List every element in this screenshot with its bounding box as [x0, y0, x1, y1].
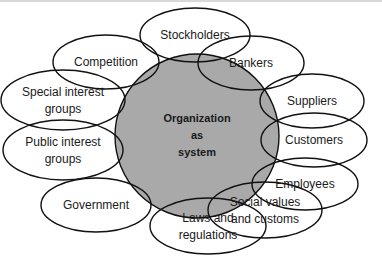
competition-label-line: Competition [74, 55, 138, 69]
organization-environment-diagram: OrganizationassystemStockholdersCompetit… [0, 0, 382, 264]
special-interest-groups-label-line: Special interest [22, 85, 105, 99]
social-values-label: Social valuesand customs [230, 195, 301, 226]
public-interest-groups-label: Public interestgroups [25, 135, 101, 166]
bankers-label-line: Bankers [229, 56, 273, 70]
laws-regulations-label-line: regulations [179, 228, 238, 242]
stockholders-label: Stockholders [160, 28, 229, 42]
government-label-line: Government [63, 198, 130, 212]
competition-label: Competition [74, 55, 138, 69]
public-interest-groups-label-line: Public interest [25, 135, 101, 149]
special-interest-groups-label: Special interestgroups [22, 85, 105, 116]
bankers-label: Bankers [229, 56, 273, 70]
employees-label: Employees [275, 177, 334, 191]
customers-label-line: Customers [285, 133, 343, 147]
employees-label-line: Employees [275, 177, 334, 191]
social-values-label-line: and customs [231, 212, 299, 226]
public-interest-groups-label-line: groups [45, 152, 82, 166]
social-values-label-line: Social values [230, 195, 301, 209]
organization-label-line: system [178, 146, 216, 158]
public-interest-groups-ellipse [3, 120, 123, 180]
organization-label-line: as [191, 129, 203, 141]
suppliers-label-line: Suppliers [287, 94, 337, 108]
laws-regulations-label-line: Laws and [182, 211, 233, 225]
customers-label: Customers [285, 133, 343, 147]
stockholders-label-line: Stockholders [160, 28, 229, 42]
government-label: Government [63, 198, 130, 212]
organization-label-line: Organization [163, 112, 231, 124]
special-interest-groups-label-line: groups [45, 102, 82, 116]
suppliers-label: Suppliers [287, 94, 337, 108]
special-interest-groups-ellipse [1, 70, 125, 130]
laws-regulations-label: Laws andregulations [179, 211, 238, 242]
